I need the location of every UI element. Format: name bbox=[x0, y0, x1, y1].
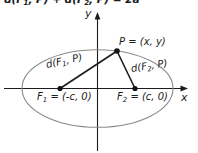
focus-f2-part: = (c, 0) bbox=[127, 91, 168, 102]
equation-part: d(F bbox=[4, 0, 24, 5]
focal-distance-equation: d(F1, P) + d(F2, P) = 2a bbox=[4, 0, 140, 5]
diagram-canvas bbox=[0, 0, 198, 153]
equation-part: , P) + d(F bbox=[28, 0, 84, 5]
x-axis-label: x bbox=[181, 92, 188, 103]
point-p-label: P = (x, y) bbox=[119, 36, 166, 47]
equation-part: , P) = 2a bbox=[89, 0, 140, 5]
y-axis-label: y bbox=[85, 8, 92, 19]
focus-f1-part: = (-c, 0) bbox=[47, 91, 91, 102]
point-p-dot bbox=[114, 48, 120, 54]
focus-f2-label: F2 = (c, 0) bbox=[117, 91, 168, 102]
focus-f1-label: F1 = (-c, 0) bbox=[37, 91, 92, 102]
y-axis-arrowhead-icon bbox=[95, 12, 101, 20]
ellipse-focal-distance-figure: d(F1, P) + d(F2, P) = 2a y x P = (x, y) … bbox=[0, 0, 198, 153]
